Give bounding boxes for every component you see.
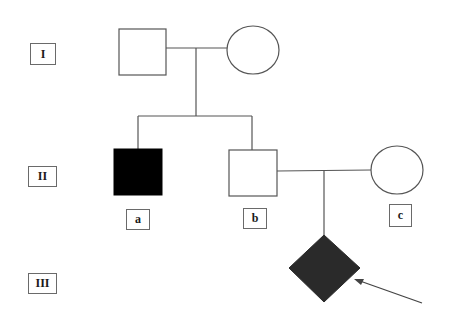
- pedigree-diagram: [0, 0, 454, 320]
- person-label-a: a: [126, 209, 150, 230]
- female-symbol-I-2: [227, 26, 279, 74]
- mating-line-gen-2: [277, 170, 371, 171]
- generation-label-II: II: [28, 166, 57, 187]
- male-symbol-b: [229, 150, 277, 196]
- male-symbol-I-1: [119, 29, 166, 75]
- proband-arrow-icon: [354, 279, 422, 303]
- female-symbol-c: [371, 146, 423, 194]
- generation-label-III: III: [28, 273, 57, 294]
- person-label-c: c: [389, 204, 412, 227]
- affected-male-symbol-a: [114, 149, 162, 195]
- affected-unknown-sex-proband-symbol: [289, 235, 360, 302]
- generation-label-I: I: [30, 43, 56, 65]
- person-label-b: b: [243, 208, 267, 229]
